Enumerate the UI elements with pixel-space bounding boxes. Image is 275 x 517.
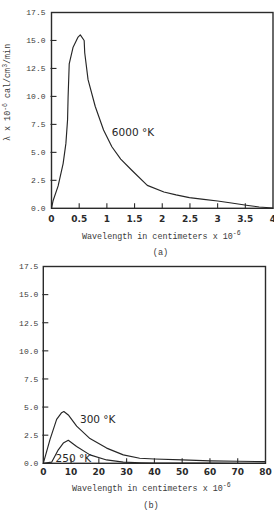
x-label-base: Wavelength in centimeters x 10 [72,484,223,494]
x-tick-label: 50 [176,467,189,477]
x-tick-label: 4 [270,214,274,224]
x-tick-label: 3 [214,214,220,224]
chart-b-panel-label: (b) [143,501,158,511]
y-tick-label: 5.0 [24,403,39,412]
y-label-part: /min [3,44,13,64]
x-label-base: Wavelength in centimeters x 10 [82,232,233,242]
x-tick-label: 0 [48,214,54,224]
x-tick-label: 70 [231,467,244,477]
y-label-part: λ x 10 [3,111,13,141]
x-tick-label: 10 [65,467,78,477]
chart-b-plot-frame [43,267,265,464]
curve-6000k [52,35,274,208]
x-tick-label: 30 [120,467,133,477]
chart-b: 010203040506070800.02.55.07.510.012.515.… [19,262,272,511]
y-tick-label: 12.5 [19,319,38,328]
x-tick-label: 20 [93,467,106,477]
x-tick-label: 1 [104,214,110,224]
y-label-part: cal/cm [3,68,13,103]
y-tick-label: 2.5 [24,431,39,440]
y-tick-label: 7.5 [24,375,39,384]
y-tick-label: 0.0 [24,459,39,468]
x-tick-label: 2 [159,214,165,224]
chart-a-ticks [51,40,246,208]
y-tick-label: 15.0 [26,36,45,45]
x-tick-label: 3.5 [237,214,253,224]
chart-a-y-axis-label: λ x 10-6 cal/cm3/min [2,44,14,141]
curve-label: 6000 °K [112,126,155,138]
y-tick-label: 0.0 [31,204,46,213]
x-tick-label: 1.5 [127,214,143,224]
y-tick-label: 17.5 [19,262,38,271]
x-label-exponent: -6 [223,482,231,489]
chart-a-panel-label: (a) [153,248,168,258]
chart-b-curve-labels: 300 °K250 °K [56,413,117,464]
chart-a-curve-labels: 6000 °K [112,126,155,138]
y-tick-label: 10.0 [19,347,38,356]
y-tick-label: 15.0 [19,290,38,299]
curve-label: 250 °K [56,452,93,464]
chart-b-x-axis-label: Wavelength in centimeters x 10-6 [72,482,231,494]
y-tick-label: 5.0 [31,148,46,157]
x-tick-label: 80 [259,467,272,477]
chart-b-tick-labels: 010203040506070800.02.55.07.510.012.515.… [19,262,272,477]
x-tick-label: 0.5 [71,214,87,224]
y-tick-label: 2.5 [31,176,46,185]
chart-a-x-axis-label: Wavelength in centimeters x 10-6 [82,230,241,242]
x-tick-label: 0 [40,467,46,477]
chart-a-tick-labels: 00.511.522.533.540.02.55.07.510.012.515.… [26,8,274,224]
curve-label: 300 °K [80,413,117,425]
y-tick-label: 12.5 [26,64,45,73]
x-tick-label: 40 [148,467,161,477]
figure: 00.511.522.533.540.02.55.07.510.012.515.… [0,0,274,517]
chart-b-ticks [42,295,237,464]
x-label-exponent: -6 [233,230,241,237]
chart-a-curves [52,35,274,208]
x-tick-label: 2.5 [182,214,198,224]
x-tick-label: 60 [204,467,217,477]
chart-a: 00.511.522.533.540.02.55.07.510.012.515.… [2,8,275,258]
y-tick-label: 7.5 [31,120,46,129]
y-tick-label: 17.5 [26,8,45,17]
y-label-exponent: -6 [2,103,9,111]
y-tick-label: 10.0 [26,92,45,101]
